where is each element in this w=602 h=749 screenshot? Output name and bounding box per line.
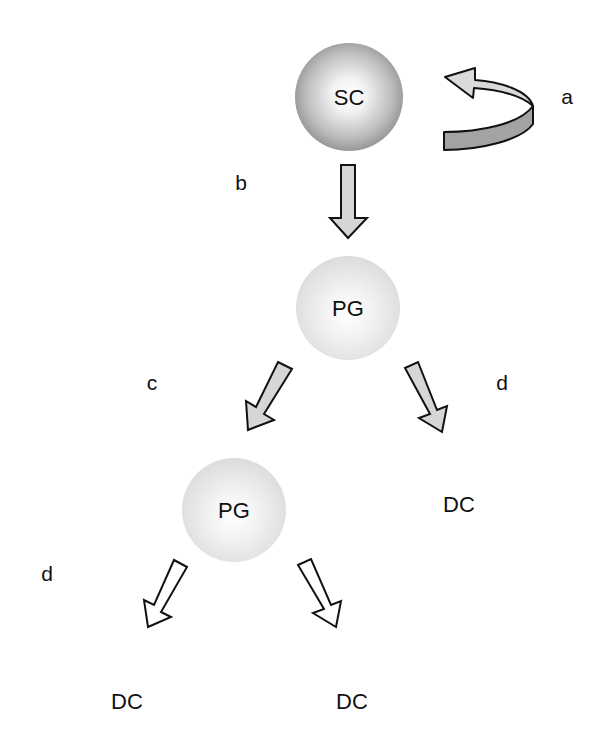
self-renewal-arrow-icon — [444, 68, 533, 150]
down-arrow-icon — [330, 165, 367, 238]
step-label-b: b — [235, 172, 247, 193]
down-right-arrow-icon — [405, 362, 447, 432]
node-label-dc-right: DC — [443, 494, 475, 516]
down-left-arrow-icon — [246, 362, 292, 430]
step-label-c: c — [147, 372, 158, 393]
node-label-dc-bottom-left: DC — [111, 691, 143, 713]
step-label-d-left: d — [41, 563, 53, 584]
diagram-canvas: SC PG PG DC DC DC a b c d d — [0, 0, 602, 749]
step-label-a: a — [561, 86, 573, 107]
node-label-dc-bottom-right: DC — [336, 691, 368, 713]
arrows-layer — [0, 0, 602, 749]
node-label-pg-top: PG — [332, 298, 364, 320]
node-label-sc: SC — [334, 87, 365, 109]
hollow-down-left-arrow-icon — [144, 560, 187, 627]
hollow-down-right-arrow-icon — [298, 559, 341, 627]
node-label-pg-bottom: PG — [218, 500, 250, 522]
step-label-d-right: d — [496, 372, 508, 393]
